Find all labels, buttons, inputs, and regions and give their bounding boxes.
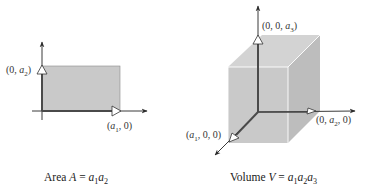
label-point-a1-0-0: (a1, 0, 0): [186, 129, 221, 140]
area-panel: [32, 42, 147, 120]
area-rectangle: [42, 66, 120, 111]
label-point-0-a2: (0, a2): [6, 64, 31, 75]
label-point-0-a2-0: (0, a2, 0): [316, 114, 351, 125]
diagram-canvas: [0, 0, 370, 193]
area-caption: Area A = a1a2: [44, 171, 108, 183]
label-point-0-0-a3: (0, 0, a3): [262, 20, 297, 31]
label-point-a1-0: (a1, 0): [107, 120, 132, 131]
volume-caption: Volume V = a1a2a3: [230, 171, 317, 183]
